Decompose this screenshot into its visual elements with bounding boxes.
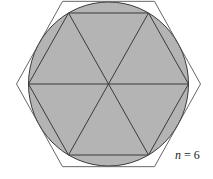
n-label: n = 6 (175, 148, 200, 163)
n-value: = 6 (181, 148, 200, 162)
